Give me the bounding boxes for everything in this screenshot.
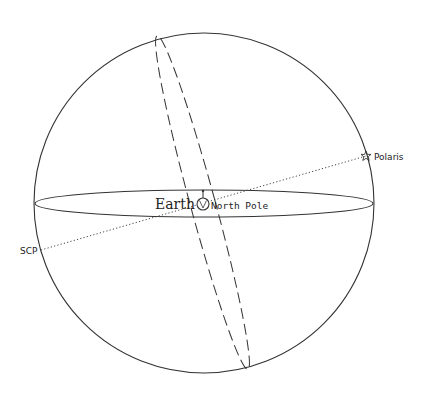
polaris-label: Polaris (374, 152, 404, 162)
earth-globe-icon (197, 190, 209, 210)
celestial-sphere-diagram: Earth North Pole Polaris SCP (0, 0, 424, 394)
earth-label: Earth (155, 196, 195, 212)
north-pole-label: North Pole (211, 200, 268, 211)
scp-label: SCP (20, 246, 38, 256)
